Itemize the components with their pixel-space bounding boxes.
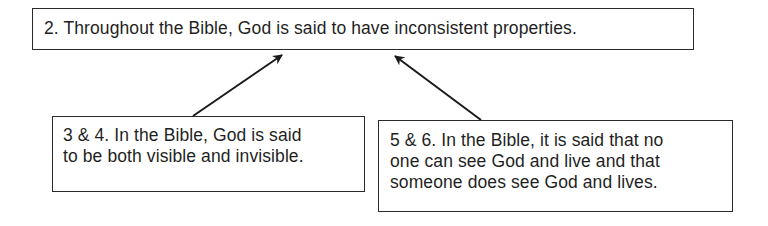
premise-3-4-line-2: to be both visible and invisible.	[63, 146, 364, 167]
claim-2-text: 2. Throughout the Bible, God is said to …	[44, 18, 693, 39]
arrow-premise-5-6-to-claim-2	[395, 56, 481, 120]
premise-5-6-line-3: someone does see God and lives.	[390, 172, 732, 193]
arrow-premise-3-4-to-claim-2	[193, 55, 282, 116]
premise-5-6-box: 5 & 6. In the Bible, it is said that no …	[378, 120, 733, 212]
premise-5-6-line-1: 5 & 6. In the Bible, it is said that no	[390, 130, 732, 151]
premise-5-6-line-2: one can see God and live and that	[390, 151, 732, 172]
premise-3-4-box: 3 & 4. In the Bible, God is said to be b…	[52, 116, 365, 192]
premise-3-4-line-1: 3 & 4. In the Bible, God is said	[63, 125, 364, 146]
claim-2-box: 2. Throughout the Bible, God is said to …	[32, 8, 694, 50]
